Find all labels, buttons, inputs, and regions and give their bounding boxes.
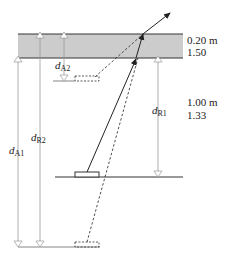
- image-object-deep: [75, 242, 99, 247]
- layer1-thickness-label: 0.20 m: [187, 34, 218, 46]
- dR1-arrow-bottom: [154, 171, 162, 177]
- dA1-sub: A1: [15, 149, 25, 158]
- layer2-thickness-label: 1.00 m: [187, 96, 218, 108]
- dR1-sub: R1: [158, 109, 167, 118]
- dA1-arrow-bottom: [14, 241, 22, 247]
- dA2-sub: A2: [61, 64, 71, 73]
- dA2-label: dA2: [55, 59, 70, 73]
- virtual-ray-deep: [87, 58, 138, 242]
- dA1-label: dA1: [9, 144, 24, 158]
- dR1-label: dR1: [152, 104, 167, 118]
- real-object: [75, 172, 99, 177]
- emergent-ray: [143, 13, 170, 34]
- dR2-arrow-bottom: [36, 241, 44, 247]
- layer1-index-label: 1.50: [187, 46, 206, 58]
- layer2-index-label: 1.33: [187, 109, 206, 121]
- dR2-label: dR2: [31, 131, 46, 145]
- dA2-arrow-bottom: [60, 75, 68, 81]
- dR2-sub: R2: [37, 136, 46, 145]
